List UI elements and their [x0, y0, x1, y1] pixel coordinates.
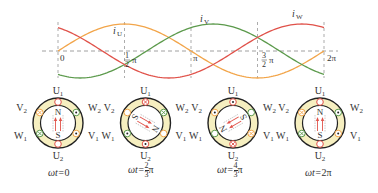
winding-label-V1: V1 [263, 130, 274, 143]
svg-text:π: π [132, 55, 137, 65]
winding-label-U1: U1 [140, 85, 151, 98]
slot-U1-none-icon [55, 99, 62, 106]
slot-W1-cross-icon [37, 130, 44, 137]
slot-W1-cross-icon [299, 130, 306, 137]
winding-label-W1: W1 [189, 130, 202, 143]
winding-label-V1: V1 [176, 130, 187, 143]
stator-diagrams: NSU1U2V2W2W1V1NSU1U2V2W2W1V1NSU1U2V2W2W1… [14, 85, 363, 163]
svg-text:3: 3 [262, 51, 266, 60]
winding-label-W1: W1 [276, 130, 289, 143]
winding-label-U1: U1 [53, 85, 64, 98]
slot-W2-dot-icon [335, 109, 342, 116]
caption-4-3-pi: ωt=43π [217, 162, 243, 179]
slot-W2-none-icon [248, 109, 255, 116]
caption-2-3-pi: ωt=23π [128, 162, 154, 179]
tick-label-pi: π [193, 53, 198, 63]
pole-N-label: N [317, 107, 324, 117]
slot-V2-cross-icon [37, 109, 44, 116]
winding-label-W1: W1 [14, 130, 27, 143]
winding-label-W2: W2 [350, 102, 363, 115]
tick-label-half-pi: 1 2 π [125, 51, 138, 69]
slot-U1-cross-icon [142, 99, 149, 106]
rotating-field-diagram: 0 1 2 π π 3 2 π 2π i U i V i W NSU1U2V2W… [0, 0, 378, 193]
svg-text:2: 2 [125, 60, 129, 69]
svg-text:i: i [292, 8, 295, 19]
pole-N-label: N [55, 107, 62, 117]
svg-text:π: π [269, 55, 274, 65]
pole-S-label: S [55, 130, 60, 140]
caption-0: ωt=0 [48, 167, 70, 178]
svg-text:V: V [204, 18, 209, 26]
slot-W1-dot-icon [124, 130, 131, 137]
slot-V1-none-icon [160, 130, 167, 137]
winding-label-U1: U1 [315, 85, 326, 98]
slot-U2-dot-icon [142, 141, 149, 148]
winding-label-W2: W2 [176, 102, 189, 115]
slot-V2-cross-icon [299, 109, 306, 116]
label-iW: i W [292, 8, 303, 21]
slot-W2-cross-icon [160, 109, 167, 116]
tick-label-0: 0 [60, 53, 65, 63]
winding-label-V2: V2 [278, 102, 289, 115]
tick-label-3half-pi: 3 2 π [262, 51, 275, 69]
winding-label-W1: W1 [102, 130, 115, 143]
slot-V1-dot-icon [335, 130, 342, 137]
slot-U2-none-icon [317, 141, 324, 148]
svg-text:2: 2 [262, 60, 266, 69]
svg-text:i: i [113, 25, 116, 36]
slot-W1-none-icon [212, 130, 219, 137]
winding-label-V1: V1 [88, 130, 99, 143]
rotor-bore [216, 106, 251, 141]
slot-V2-none-icon [124, 109, 131, 116]
stator-1: NSU1U2V2W2W1V1 [102, 85, 189, 163]
winding-label-W2: W2 [263, 102, 276, 115]
winding-label-W2: W2 [88, 102, 101, 115]
slot-U2-cross-icon [230, 141, 237, 148]
svg-text:W: W [296, 13, 303, 21]
stator-2: NSU1U2V2W2W1V1 [189, 85, 276, 163]
winding-label-U2: U2 [315, 150, 326, 163]
winding-label-U1: U1 [228, 85, 239, 98]
svg-text:i: i [200, 13, 203, 24]
winding-label-V2: V2 [191, 102, 202, 115]
stator-3: NSU1U2V2W2W1V1 [276, 85, 363, 163]
pole-S-label: S [317, 130, 322, 140]
winding-label-V2: V2 [104, 102, 115, 115]
slot-U1-none-icon [317, 99, 324, 106]
slot-V1-dot-icon [73, 130, 80, 137]
stator-0: NSU1U2V2W2W1V1 [14, 85, 101, 163]
label-iV: i V [200, 13, 209, 26]
svg-text:U: U [117, 30, 122, 38]
tick-label-2pi: 2π [327, 53, 337, 63]
winding-label-U2: U2 [53, 150, 64, 163]
slot-V2-dot-icon [212, 109, 219, 116]
curve-iU [58, 24, 324, 78]
winding-label-V1: V1 [350, 130, 361, 143]
svg-text:1: 1 [125, 51, 129, 60]
slot-V1-cross-icon [248, 130, 255, 137]
label-iU: i U [113, 25, 122, 38]
caption-2pi: ωt=2π [305, 167, 332, 178]
rotor-bore [128, 106, 163, 141]
waveform-plot: 0 1 2 π π 3 2 π 2π i U i V i W [42, 8, 338, 78]
slot-W2-dot-icon [73, 109, 80, 116]
slot-U2-none-icon [55, 141, 62, 148]
winding-label-V2: V2 [16, 102, 27, 115]
slot-U1-dot-icon [230, 99, 237, 106]
